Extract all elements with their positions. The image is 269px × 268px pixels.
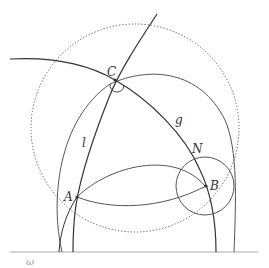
label-l: l: [82, 136, 86, 150]
label-n: N: [191, 142, 203, 156]
label-c: C: [107, 65, 116, 79]
label-b: B: [209, 179, 219, 193]
dotted-circle: [31, 24, 239, 232]
label-g: g: [175, 113, 183, 127]
lens-lower: [77, 186, 206, 206]
lens-upper: [77, 165, 205, 197]
solid-arc-upper: [57, 74, 235, 252]
label-omega: ω: [26, 256, 34, 267]
geometry-diagram: C A B N l g ω: [0, 0, 269, 268]
line-l: [73, 14, 157, 252]
point-b: [204, 184, 207, 187]
label-a: A: [63, 190, 73, 204]
point-a: [75, 195, 78, 198]
